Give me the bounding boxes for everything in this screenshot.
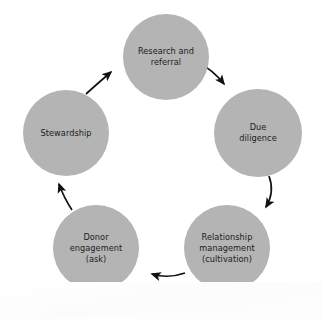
node-relationship-management[interactable]: Relationship management (cultivation) (184, 205, 270, 291)
arrow-stewardship-to-research (86, 72, 111, 94)
arrow-donor-to-stewardship (59, 184, 72, 210)
arrow-due-diligence-to-relationship (266, 176, 271, 207)
node-label-research-and-referral: Research and referral (132, 46, 200, 68)
fundraising-cycle-diagram: Research and referral Due diligence Rela… (0, 0, 322, 319)
arrow-relationship-to-donor (152, 273, 185, 276)
node-label-donor-engagement: Donor engagement (ask) (64, 232, 129, 265)
node-research-and-referral[interactable]: Research and referral (123, 14, 209, 100)
node-label-stewardship: Stewardship (34, 128, 97, 139)
node-due-diligence[interactable]: Due diligence (214, 89, 302, 177)
node-stewardship[interactable]: Stewardship (23, 90, 109, 176)
node-label-due-diligence: Due diligence (233, 122, 282, 144)
node-label-relationship-management: Relationship management (cultivation) (193, 232, 260, 265)
node-donor-engagement[interactable]: Donor engagement (ask) (53, 205, 139, 291)
